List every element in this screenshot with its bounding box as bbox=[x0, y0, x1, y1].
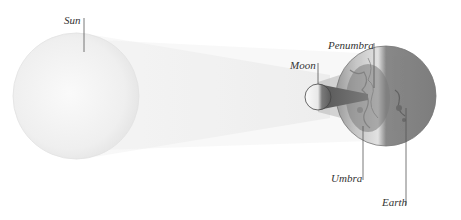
penumbra-label: Penumbra bbox=[328, 40, 374, 51]
eclipse-diagram bbox=[0, 0, 461, 220]
umbra-label: Umbra bbox=[331, 173, 362, 184]
sun-label: Sun bbox=[64, 15, 81, 26]
moon-label: Moon bbox=[290, 60, 316, 71]
earth-label: Earth bbox=[382, 197, 407, 208]
sun bbox=[13, 33, 139, 159]
moon bbox=[305, 84, 331, 110]
